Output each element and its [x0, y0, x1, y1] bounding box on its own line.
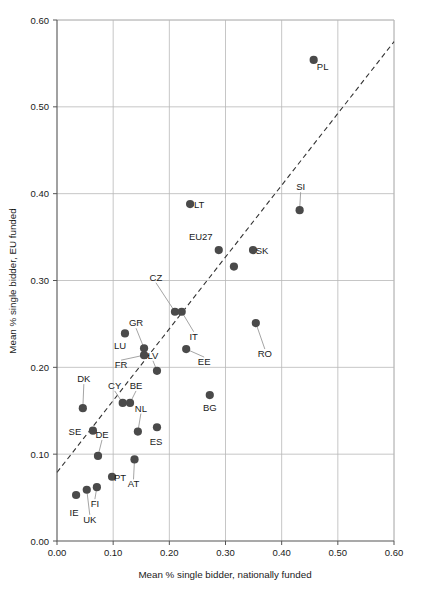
x-tick-label: 0.30: [216, 547, 235, 558]
data-point-label: LT: [194, 199, 205, 210]
data-point-label: IE: [70, 507, 79, 518]
scatter-chart-figure: PLSILTSKEU27ROCZITEELUGRFRLVBGDKCYBESENL…: [0, 0, 426, 591]
data-point-label: RO: [258, 348, 272, 359]
data-point: [182, 345, 190, 353]
data-point-label: FI: [91, 498, 99, 509]
y-tick-label: 0.00: [31, 536, 50, 547]
data-point: [252, 319, 260, 327]
data-point: [121, 329, 129, 337]
y-tick-label: 0.40: [31, 188, 50, 199]
data-point: [126, 399, 134, 407]
x-tick-label: 0.60: [385, 547, 404, 558]
data-point: [79, 404, 87, 412]
data-point: [83, 486, 91, 494]
data-point: [72, 491, 80, 499]
data-point-label: ES: [150, 436, 163, 447]
data-point: [130, 455, 138, 463]
data-point: [296, 206, 304, 214]
x-tick-label: 0.00: [48, 547, 67, 558]
data-point-label: DE: [95, 429, 108, 440]
data-point-label: FR: [115, 359, 128, 370]
x-axis-title: Mean % single bidder, nationally funded: [138, 569, 311, 580]
data-point-label: SE: [69, 426, 82, 437]
y-tick-label: 0.30: [31, 275, 50, 286]
data-point: [230, 263, 238, 271]
data-point: [215, 246, 223, 254]
data-point-label: SI: [296, 181, 305, 192]
x-tick-label: 0.20: [160, 547, 179, 558]
data-point: [93, 483, 101, 491]
data-point-label: SK: [256, 245, 269, 256]
data-point: [94, 452, 102, 460]
data-point-label: IT: [189, 331, 198, 342]
y-axis-tick-labels: 0.000.100.200.300.400.500.60: [31, 15, 50, 547]
x-tick-label: 0.10: [104, 547, 123, 558]
data-point-label: UK: [83, 514, 97, 525]
data-point-label: DK: [77, 373, 91, 384]
chart-canvas: PLSILTSKEU27ROCZITEELUGRFRLVBGDKCYBESENL…: [0, 0, 426, 591]
data-point-label: BG: [203, 402, 217, 413]
y-axis-title: Mean % single bidder, EU funded: [7, 208, 18, 353]
y-tick-label: 0.20: [31, 362, 50, 373]
x-tick-label: 0.50: [329, 547, 348, 558]
y-tick-label: 0.50: [31, 101, 50, 112]
data-point-label: CZ: [150, 272, 163, 283]
data-point-label: NL: [135, 403, 147, 414]
x-tick-label: 0.40: [272, 547, 291, 558]
data-point-label: PT: [114, 472, 126, 483]
data-point: [119, 399, 127, 407]
data-point: [153, 423, 161, 431]
data-point: [206, 391, 214, 399]
data-point-label: PL: [317, 61, 329, 72]
data-point-label: CY: [108, 380, 122, 391]
data-point-label: EU27: [189, 231, 213, 242]
data-point-label: LU: [114, 340, 126, 351]
y-tick-label: 0.60: [31, 15, 50, 26]
y-tick-label: 0.10: [31, 449, 50, 460]
data-point-label: AT: [128, 478, 140, 489]
data-point-label: GR: [129, 317, 143, 328]
data-point: [134, 427, 142, 435]
x-axis-tick-labels: 0.000.100.200.300.400.500.60: [48, 547, 404, 558]
data-point-label: EE: [198, 356, 211, 367]
data-point-label: BE: [130, 380, 143, 391]
data-point: [153, 367, 161, 375]
data-point-label: LV: [148, 350, 160, 361]
data-point: [178, 308, 186, 316]
